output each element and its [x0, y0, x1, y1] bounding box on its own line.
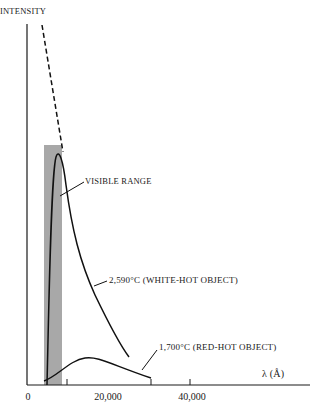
- x-tick-label-40000: 40,000: [178, 391, 206, 402]
- red-hot-leader: [142, 350, 157, 370]
- y-axis-label: INTENSITY: [0, 6, 46, 16]
- x-tick-label-20000: 20,000: [94, 391, 122, 402]
- visible-range-label: VISIBLE RANGE: [85, 176, 152, 186]
- x-axis-label: λ (Å): [262, 368, 284, 379]
- white-hot-label: 2,590°C (WHITE-HOT OBJECT): [109, 275, 238, 285]
- red-hot-label: 1,700°C (RED-HOT OBJECT): [159, 342, 276, 352]
- white-hot-leader: [94, 281, 107, 286]
- dashed-hotter-curve: [42, 25, 63, 152]
- x-tick-label-0: 0: [26, 391, 31, 402]
- visible-range-leader: [60, 182, 84, 196]
